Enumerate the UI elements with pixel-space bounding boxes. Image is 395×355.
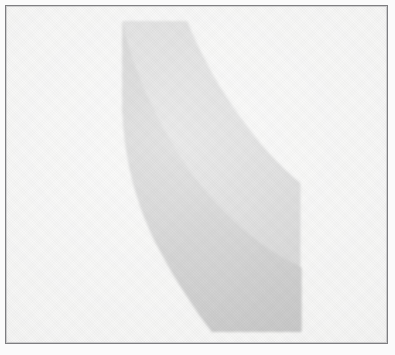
figure-border — [5, 5, 388, 344]
screenshot-root — [0, 0, 395, 355]
figure-canvas — [6, 6, 387, 343]
